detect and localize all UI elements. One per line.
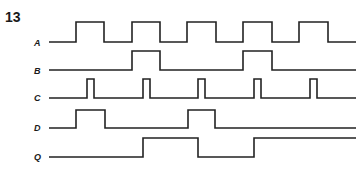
waveform-c <box>49 79 356 98</box>
timing-diagram <box>0 0 363 171</box>
waveform-q <box>49 138 356 157</box>
waveform-d <box>49 110 356 128</box>
waveform-a <box>49 22 356 42</box>
waveform-b <box>49 51 356 70</box>
